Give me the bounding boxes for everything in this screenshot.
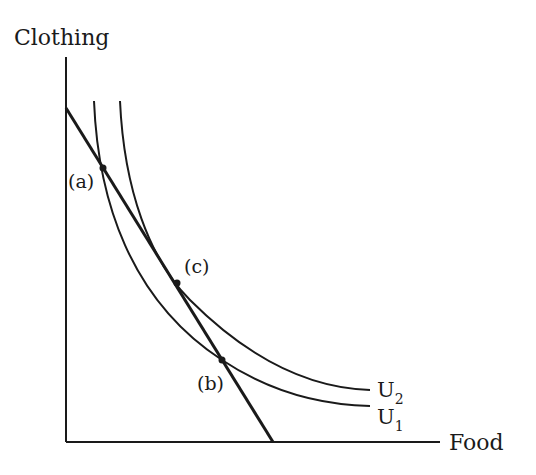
u1-label-subscript: 1 — [395, 418, 404, 434]
budget-line — [66, 108, 273, 442]
u2-label-main: U — [377, 378, 395, 402]
point-a-marker — [100, 165, 107, 172]
point-b-label: (b) — [197, 372, 224, 394]
u1-label-main: U — [377, 405, 395, 429]
u2-label-subscript: 2 — [395, 391, 404, 407]
indifference-curve-diagram: Clothing Food (a) (b) (c) U2 U1 — [0, 0, 536, 475]
x-axis-label: Food — [449, 430, 504, 455]
u2-label: U2 — [377, 378, 404, 407]
point-c-marker — [174, 280, 181, 287]
y-axis-label: Clothing — [14, 25, 109, 50]
indifference-curve-u1 — [94, 101, 370, 406]
u1-label: U1 — [377, 405, 404, 434]
point-a-label: (a) — [68, 170, 94, 192]
point-b-marker — [219, 357, 226, 364]
point-c-label: (c) — [184, 255, 209, 277]
indifference-curve-u2 — [120, 101, 370, 390]
